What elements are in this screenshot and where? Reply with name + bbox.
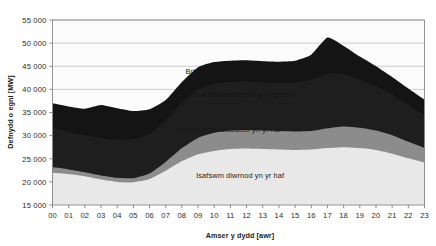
y-axis-title: Defnydd o egni [MW] bbox=[6, 75, 15, 148]
y-tick-label: 35 000 bbox=[22, 108, 46, 117]
band-annotation: Brig nodweddiadol yn y gaeaf bbox=[185, 67, 286, 76]
x-tick-label: 01 bbox=[64, 211, 73, 220]
energy-demand-area-chart: 15 00020 00025 00030 00035 00040 00045 0… bbox=[0, 0, 436, 246]
y-tick-label: 55 000 bbox=[22, 16, 46, 25]
y-tick-label: 30 000 bbox=[22, 131, 46, 140]
x-tick-label: 10 bbox=[210, 211, 219, 220]
x-tick-label: 02 bbox=[80, 211, 89, 220]
band-annotation: Diwrnod nodweddiadol yn yr haf bbox=[173, 125, 282, 134]
x-tick-label: 12 bbox=[242, 211, 251, 220]
y-tick-label: 15 000 bbox=[22, 201, 46, 210]
x-tick-label: 22 bbox=[404, 211, 413, 220]
x-tick-label: 00 bbox=[48, 211, 57, 220]
x-tick-label: 19 bbox=[355, 211, 364, 220]
y-tick-label: 20 000 bbox=[22, 178, 46, 187]
x-tick-label: 06 bbox=[145, 211, 154, 220]
x-tick-label: 16 bbox=[307, 211, 316, 220]
x-tick-label: 09 bbox=[194, 211, 203, 220]
x-tick-label: 05 bbox=[129, 211, 138, 220]
x-tick-label: 15 bbox=[291, 211, 300, 220]
y-tick-label: 50 000 bbox=[22, 39, 46, 48]
x-tick-label: 21 bbox=[388, 211, 397, 220]
x-tick-label: 08 bbox=[178, 211, 187, 220]
x-tick-label: 11 bbox=[226, 211, 234, 220]
x-tick-label: 17 bbox=[323, 211, 332, 220]
y-tick-label: 45 000 bbox=[22, 62, 46, 71]
x-tick-label: 18 bbox=[339, 211, 348, 220]
x-tick-label: 13 bbox=[258, 211, 267, 220]
band-annotation: Isafswm diwrnod yn yr haf bbox=[196, 171, 285, 180]
x-tick-label: 07 bbox=[161, 211, 170, 220]
y-tick-label: 40 000 bbox=[22, 85, 46, 94]
x-tick-label: 03 bbox=[97, 211, 106, 220]
x-tick-label: 20 bbox=[372, 211, 381, 220]
x-tick-label: 14 bbox=[275, 211, 284, 220]
band-annotation: Diwrnod nodweddiadol yn y gaeaf bbox=[178, 90, 293, 99]
x-axis-title: Amser y dydd [awr] bbox=[206, 231, 275, 240]
y-tick-label: 25 000 bbox=[22, 155, 46, 164]
x-tick-label: 23 bbox=[420, 211, 429, 220]
x-tick-label: 04 bbox=[113, 211, 122, 220]
